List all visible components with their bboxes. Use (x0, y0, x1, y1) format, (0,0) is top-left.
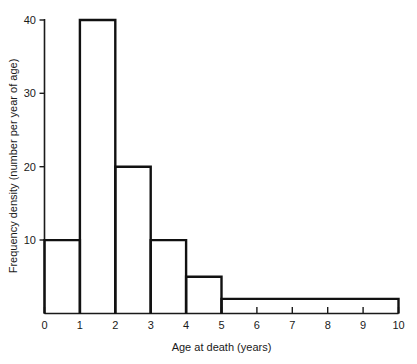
x-tick-label: 8 (325, 319, 331, 331)
x-tick-label: 6 (254, 319, 260, 331)
chart-background (0, 0, 417, 364)
x-tick-label: 0 (41, 319, 47, 331)
x-axis-title: Age at death (years) (172, 341, 272, 353)
x-tick-label: 2 (112, 319, 118, 331)
y-tick-label: 10 (24, 234, 36, 246)
x-tick-label: 7 (289, 319, 295, 331)
x-tick-label: 3 (148, 319, 154, 331)
y-tick-label: 20 (24, 161, 36, 173)
x-tick-label: 9 (360, 319, 366, 331)
x-tick-label: 10 (392, 319, 404, 331)
x-tick-label: 5 (218, 319, 224, 331)
y-tick-label: 30 (24, 87, 36, 99)
y-tick-label: 40 (24, 14, 36, 26)
frequency-density-histogram: 40 30 20 10 0 1 2 3 4 5 6 (0, 0, 417, 364)
y-axis-title: Frequency density (number per year of ag… (7, 59, 19, 274)
x-tick-label: 1 (77, 319, 83, 331)
x-tick-label: 4 (183, 319, 189, 331)
histogram-figure: 40 30 20 10 0 1 2 3 4 5 6 (0, 0, 417, 364)
